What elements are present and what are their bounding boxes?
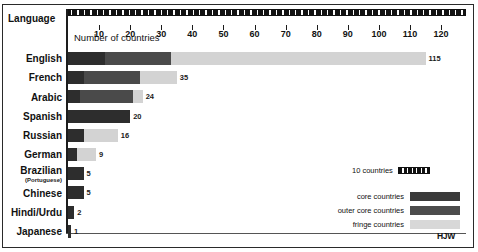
category-label-text: Brazilian [20,166,62,177]
y-axis-title: Language [8,13,55,24]
bar-row: English115 [0,50,478,69]
bar-segment-outer [105,52,170,65]
legend-item-label: fringe countries [353,220,404,229]
category-label-text: German [24,150,62,161]
stacked-bar [68,110,466,123]
bar-row: Spanish20 [0,108,478,127]
bar-segment-fringe [171,52,426,65]
bar-value-label: 115 [429,54,441,63]
category-label: French [29,69,62,88]
bar-value-label: 35 [180,73,188,82]
bar-segment-core [68,110,130,123]
bar-segment-fringe [140,71,177,84]
legend-item-label: core countries [357,192,404,201]
legend-swatch-icon [410,206,460,215]
legend-item-label: outer core countries [338,206,404,215]
category-label-text: Russian [23,131,62,142]
x-tick-label: 70 [281,29,291,39]
category-label: German [24,146,62,165]
category-label: Japanese [16,223,62,242]
bar-segment-core [68,225,71,238]
bar-value-label: 20 [133,112,141,121]
legend-series-key: core countriesouter core countriesfringe… [300,192,460,234]
bar-value-label: 1 [74,227,78,236]
x-tick-label: 100 [371,29,386,39]
bar-value-label: 2 [77,208,81,217]
bar-segment-core [68,206,74,219]
category-label: Brazilian(Portuguese) [20,165,62,184]
category-label: English [26,50,62,69]
legend-item: core countries [300,192,460,201]
legend-scale-swatch-icon [398,167,430,174]
bar-value-label: 5 [87,169,91,178]
category-label-text: English [26,54,62,65]
category-label: Spanish [23,108,62,127]
category-label-text: Japanese [16,227,62,238]
bar-segment-core [68,167,84,180]
legend-item: fringe countries [300,220,460,229]
x-axis-title: Number of countries [74,32,160,43]
category-label-text: Arabic [31,93,62,104]
bar-segment-core [68,90,80,103]
category-label: Russian [23,127,62,146]
category-sublabel-text: (Portuguese) [25,177,62,183]
x-tick-label: 110 [403,29,418,39]
author-signature: HJW [437,231,455,241]
bar-segment-core [68,186,84,199]
stacked-bar [68,148,466,161]
bar-row: Arabic24 [0,88,478,107]
category-label-text: French [29,73,62,84]
bar-segment-fringe [84,129,118,142]
bar-segment-core [68,148,77,161]
legend-scale-reference: 10 countries [352,166,430,175]
x-tick-label: 60 [250,29,260,39]
bar-value-label: 16 [121,131,129,140]
bar-row: Russian16 [0,127,478,146]
bar-value-label: 9 [99,150,103,159]
category-label-text: Chinese [23,189,62,200]
bar-segment-core [68,71,84,84]
x-tick-label: 80 [312,29,322,39]
x-tick-label: 120 [434,29,449,39]
bar-value-label: 24 [146,92,154,101]
category-label-text: Spanish [23,112,62,123]
stacked-bar [68,71,466,84]
category-label: Arabic [31,88,62,107]
category-label: Chinese [23,184,62,203]
x-tick-label: 40 [187,29,197,39]
bar-segment-fringe [77,148,96,161]
legend-item: outer core countries [300,206,460,215]
bar-segment-outer [80,90,133,103]
bar-segment-core [68,52,105,65]
stacked-bar [68,52,466,65]
category-label-text: Hindi/Urdu [11,208,62,219]
bar-segment-fringe [133,90,142,103]
x-tick-label: 90 [343,29,353,39]
bar-segment-outer [84,71,140,84]
chart-figure: Language 102030405060708090100110120 Num… [0,0,478,252]
legend-scale-label: 10 countries [352,166,393,175]
x-tick-label: 50 [218,29,228,39]
legend-swatch-icon [410,220,460,229]
legend-swatch-icon [410,192,460,201]
bar-value-label: 5 [87,188,91,197]
category-label: Hindi/Urdu [11,204,62,223]
bar-segment-core [68,129,84,142]
bar-row: French35 [0,69,478,88]
stacked-bar [68,90,466,103]
bar-row: German9 [0,146,478,165]
